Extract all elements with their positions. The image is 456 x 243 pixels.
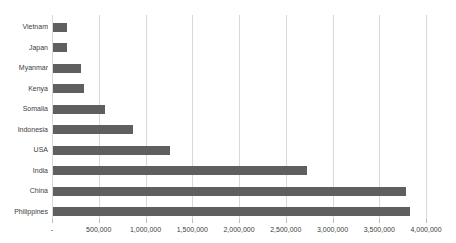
x-tick-label: 4,000,000	[410, 226, 441, 233]
x-axis-tick	[333, 219, 334, 223]
x-tick-label: -	[51, 226, 53, 233]
x-axis-tick	[52, 219, 53, 223]
x-axis-tick	[146, 219, 147, 223]
x-axis-tick	[99, 219, 100, 223]
x-tick-label: 3,000,000	[317, 226, 348, 233]
x-axis-tick	[426, 219, 427, 223]
x-tick-label: 3,500,000	[364, 226, 395, 233]
bar-usa	[53, 146, 171, 155]
gridline	[426, 15, 427, 219]
bar-vietnam	[53, 23, 67, 32]
bar-myanmar	[53, 64, 82, 73]
category-label: Somalia	[0, 105, 48, 113]
x-tick-label: 1,500,000	[177, 226, 208, 233]
category-label: Kenya	[0, 85, 48, 93]
bar-indonesia	[53, 125, 133, 134]
bar-philippines	[53, 207, 410, 216]
category-label: India	[0, 167, 48, 175]
x-axis-tick	[192, 219, 193, 223]
bar-kenya	[53, 84, 85, 93]
bar-india	[53, 166, 307, 175]
category-label: Japan	[0, 44, 48, 52]
category-label: Indonesia	[0, 126, 48, 134]
category-label: China	[0, 187, 48, 195]
category-label: USA	[0, 146, 48, 154]
category-label: Philippines	[0, 208, 48, 216]
bar-somalia	[53, 105, 105, 114]
bar-japan	[53, 43, 68, 52]
x-axis-tick	[239, 219, 240, 223]
x-axis-tick	[286, 219, 287, 223]
category-label: Vietnam	[0, 23, 48, 31]
horizontal-bar-chart: -500,0001,000,0001,500,0002,000,0002,500…	[0, 0, 456, 243]
x-tick-label: 2,000,000	[223, 226, 254, 233]
bar-china	[53, 187, 406, 196]
x-axis-tick	[379, 219, 380, 223]
x-tick-label: 500,000	[86, 226, 111, 233]
category-label: Myanmar	[0, 64, 48, 72]
x-tick-label: 2,500,000	[270, 226, 301, 233]
x-tick-label: 1,000,000	[130, 226, 161, 233]
